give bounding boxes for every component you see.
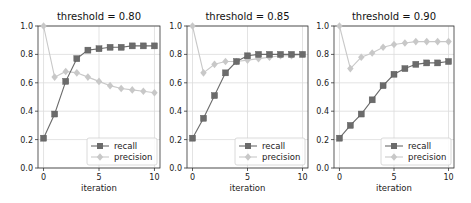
x-axis-label: iteration [81, 183, 117, 193]
data-point-square [402, 66, 408, 72]
chart-panel-1: 0.00.20.40.60.81.00510threshold = 0.80it… [20, 11, 160, 193]
data-point-diamond [336, 22, 342, 30]
data-point-square [267, 51, 273, 57]
y-tick-label: 1.0 [169, 22, 182, 31]
x-tick-label: 10 [297, 173, 307, 182]
y-tick-label: 1.0 [20, 22, 33, 31]
y-tick-label: 0.2 [169, 136, 182, 145]
data-point-square [223, 70, 229, 76]
data-point-square [52, 111, 58, 117]
data-point-square [380, 83, 386, 89]
data-point-square [74, 56, 80, 62]
data-point-diamond [211, 61, 217, 69]
data-point-diamond [423, 38, 429, 46]
data-point-square [413, 61, 419, 67]
chart-panel-3: 0.00.20.40.60.81.00510threshold = 0.90it… [316, 11, 454, 193]
y-tick-label: 0.4 [316, 107, 329, 116]
data-point-square [336, 135, 342, 141]
data-point-square [63, 78, 69, 84]
data-point-diamond [369, 49, 375, 57]
y-tick-label: 0.8 [20, 50, 33, 59]
y-tick-label: 0.0 [20, 164, 33, 173]
legend-label-recall: recall [408, 141, 431, 151]
data-point-square [41, 135, 47, 141]
data-point-square [446, 59, 452, 65]
data-point-square [424, 60, 430, 66]
legend: recallprecision [235, 138, 305, 165]
y-tick-label: 0.6 [316, 79, 329, 88]
chart-title: threshold = 0.85 [205, 11, 289, 22]
legend-label-precision: precision [262, 152, 300, 162]
figure: 0.00.20.40.60.81.00510threshold = 0.80it… [0, 0, 471, 203]
data-point-square [85, 47, 91, 53]
chart-title: threshold = 0.90 [352, 11, 436, 22]
x-tick-label: 5 [245, 173, 250, 182]
data-point-square [256, 51, 262, 57]
data-point-square [151, 43, 157, 49]
data-point-square [245, 53, 251, 59]
data-point-diamond [391, 41, 397, 49]
x-axis-label: iteration [376, 183, 412, 193]
data-point-square [201, 115, 207, 121]
x-axis-label: iteration [230, 183, 266, 193]
data-point-square [391, 71, 397, 77]
data-point-diamond [129, 86, 135, 94]
legend-square-icon [391, 143, 397, 149]
x-tick-label: 10 [443, 173, 453, 182]
y-tick-label: 0.4 [169, 107, 182, 116]
data-point-square [300, 51, 306, 57]
y-tick-label: 0.0 [169, 164, 182, 173]
y-tick-label: 0.6 [169, 79, 182, 88]
x-tick-label: 0 [337, 173, 342, 182]
data-point-square [435, 60, 441, 66]
data-point-diamond [189, 22, 195, 30]
chart-title: threshold = 0.80 [57, 11, 141, 22]
legend: recallprecision [381, 138, 451, 165]
legend-label-recall: recall [262, 141, 285, 151]
y-tick-label: 0.2 [20, 136, 33, 145]
data-point-square [347, 122, 353, 128]
legend-square-icon [97, 143, 103, 149]
data-point-square [190, 135, 196, 141]
data-point-square [212, 93, 218, 99]
data-point-square [140, 43, 146, 49]
y-tick-label: 0.8 [316, 50, 329, 59]
data-point-diamond [74, 69, 80, 77]
legend-label-precision: precision [114, 152, 152, 162]
legend-square-icon [245, 143, 251, 149]
x-tick-label: 10 [149, 173, 159, 182]
data-point-diamond [434, 38, 440, 46]
x-tick-label: 0 [41, 173, 46, 182]
data-point-square [358, 111, 364, 117]
chart-panel-2: 0.00.20.40.60.81.00510threshold = 0.85it… [169, 11, 308, 193]
y-tick-label: 0.2 [316, 136, 329, 145]
data-point-square [107, 44, 113, 50]
data-point-diamond [118, 85, 124, 93]
data-point-square [234, 59, 240, 65]
y-tick-label: 0.6 [20, 79, 33, 88]
data-point-square [118, 44, 124, 50]
y-tick-label: 0.0 [316, 164, 329, 173]
data-point-diamond [62, 68, 68, 76]
data-point-square [278, 51, 284, 57]
data-point-diamond [151, 89, 157, 97]
x-tick-label: 0 [190, 173, 195, 182]
data-point-diamond [222, 58, 228, 66]
y-tick-label: 0.4 [20, 107, 33, 116]
data-point-diamond [140, 88, 146, 96]
data-point-diamond [51, 73, 57, 81]
data-point-diamond [445, 38, 451, 46]
data-point-square [369, 97, 375, 103]
data-point-square [129, 43, 135, 49]
y-tick-label: 0.8 [169, 50, 182, 59]
data-point-diamond [85, 73, 91, 81]
data-point-diamond [96, 78, 102, 86]
data-point-square [289, 51, 295, 57]
data-point-diamond [402, 39, 408, 47]
data-point-diamond [200, 69, 206, 77]
x-tick-label: 5 [96, 173, 101, 182]
x-tick-label: 5 [391, 173, 396, 182]
legend-label-precision: precision [408, 152, 446, 162]
data-point-diamond [40, 22, 46, 30]
data-point-diamond [380, 44, 386, 52]
